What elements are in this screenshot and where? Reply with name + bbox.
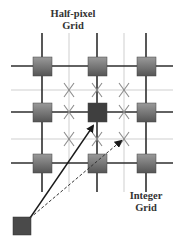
selected-integer-pixel <box>88 103 107 122</box>
integer-pixel <box>33 103 52 122</box>
integer-grid-label: Integer Grid <box>118 190 174 214</box>
half-pixel-grid-label: Half-pixel Grid <box>42 8 104 32</box>
integer-pixel <box>137 57 156 76</box>
integer-pixel <box>33 57 52 76</box>
half-pixel-label-line2: Grid <box>42 20 104 32</box>
integer-pixel-squares <box>33 57 156 173</box>
integer-label-line1: Integer <box>118 190 174 202</box>
integer-pixel <box>33 154 52 173</box>
source-block <box>13 217 31 235</box>
integer-label-line2: Grid <box>118 202 174 214</box>
integer-pixel <box>88 154 107 173</box>
half-pixel-label-line1: Half-pixel <box>42 8 104 20</box>
integer-pixel <box>137 154 156 173</box>
integer-pixel <box>137 103 156 122</box>
integer-pixel <box>88 57 107 76</box>
